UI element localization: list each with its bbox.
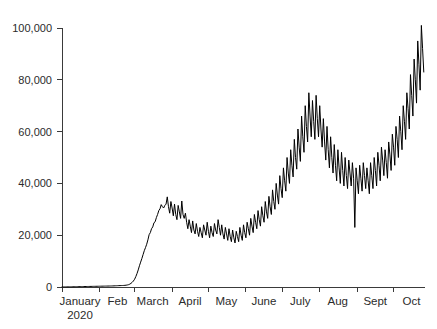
x-tick-label: January xyxy=(60,295,101,307)
data-series-line xyxy=(62,25,424,287)
y-axis-ticks xyxy=(57,28,62,287)
y-tick-label: 100,000 xyxy=(12,22,52,34)
y-tick-label: 40,000 xyxy=(18,177,52,189)
y-tick-label: 60,000 xyxy=(18,126,52,138)
y-tick-label: 20,000 xyxy=(18,229,52,241)
y-tick-label: 0 xyxy=(46,281,52,293)
x-tick-label: Aug xyxy=(327,295,347,307)
chart-container: 020,00040,00060,00080,000100,000 January… xyxy=(0,0,437,329)
x-tick-label: March xyxy=(137,295,169,307)
y-tick-label: 80,000 xyxy=(18,74,52,86)
x-axis-ticks xyxy=(62,287,394,292)
y-axis-labels: 020,00040,00060,00080,000100,000 xyxy=(12,22,52,293)
x-tick-label: July xyxy=(290,295,311,307)
x-axis-labels: January2020FebMarchAprilMayJuneJulyAugSe… xyxy=(60,295,422,321)
x-tick-label: Sept xyxy=(363,295,387,307)
x-tick-label: Oct xyxy=(403,295,422,307)
x-tick-label: June xyxy=(251,295,276,307)
x-tick-label: Feb xyxy=(108,295,128,307)
x-tick-label: May xyxy=(216,295,238,307)
x-tick-label: April xyxy=(179,295,202,307)
line-chart-plot: 020,00040,00060,00080,000100,000 January… xyxy=(0,0,437,329)
x-tick-sublabel: 2020 xyxy=(67,309,93,321)
